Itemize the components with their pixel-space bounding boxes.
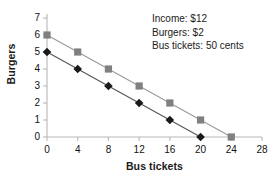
- data-point-diamond: [43, 48, 52, 57]
- y-tick-label: 4: [26, 63, 40, 74]
- y-axis-title: Burgers: [5, 32, 17, 96]
- y-tick-label: 1: [26, 114, 40, 125]
- series-line-1: [47, 52, 201, 137]
- data-point-square: [74, 48, 81, 55]
- x-tick-label: 4: [68, 144, 88, 155]
- y-tick-label: 2: [26, 97, 40, 108]
- data-point-square: [197, 116, 204, 123]
- data-point-diamond: [104, 82, 113, 91]
- y-tick-label: 7: [26, 12, 40, 23]
- annotation-burgers: Burgers: $2: [152, 26, 244, 40]
- x-tick-label: 20: [191, 144, 211, 155]
- y-tick-label: 3: [26, 80, 40, 91]
- data-point-diamond: [166, 116, 175, 125]
- data-point-diamond: [196, 133, 205, 142]
- x-tick-label: 16: [160, 144, 180, 155]
- y-tick-label: 0: [26, 131, 40, 142]
- budget-line-chart: Burgers Bus tickets 01234567048121620242…: [0, 0, 275, 180]
- data-point-diamond: [73, 65, 82, 74]
- data-point-square: [228, 133, 235, 140]
- data-point-square: [43, 31, 50, 38]
- x-tick-label: 12: [129, 144, 149, 155]
- x-axis-title: Bus tickets: [47, 160, 262, 172]
- data-point-diamond: [135, 99, 144, 108]
- cut-off-caption: [14, 174, 262, 180]
- x-tick-label: 28: [252, 144, 272, 155]
- x-tick-label: 0: [37, 144, 57, 155]
- x-tick-label: 24: [221, 144, 241, 155]
- data-point-square: [166, 99, 173, 106]
- data-point-square: [105, 65, 112, 72]
- annotation-income: Income: $12: [152, 12, 244, 26]
- annotation-bus-tickets: Bus tickets: 50 cents: [152, 39, 244, 53]
- x-tick-label: 8: [98, 144, 118, 155]
- y-tick-label: 6: [26, 29, 40, 40]
- data-point-square: [136, 82, 143, 89]
- y-tick-label: 5: [26, 46, 40, 57]
- annotation-block: Income: $12 Burgers: $2 Bus tickets: 50 …: [152, 12, 244, 53]
